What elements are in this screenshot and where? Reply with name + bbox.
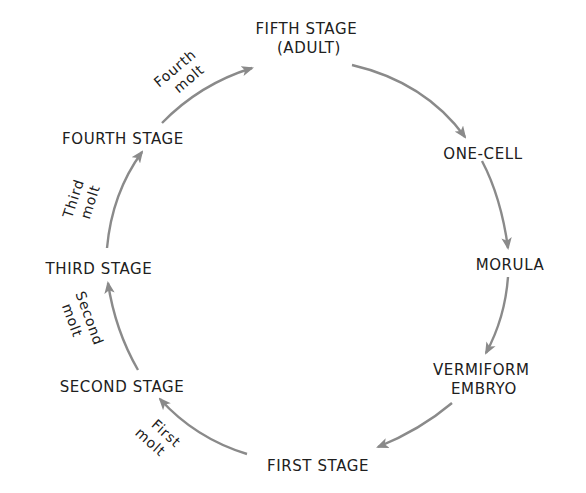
stage-vermiform-line2: EMBRYO <box>451 380 517 398</box>
stage-third: THIRD STAGE <box>45 260 153 278</box>
arrow-fifth-to-one-cell <box>352 65 465 137</box>
stage-one-cell: ONE-CELL <box>443 145 522 163</box>
molt-labels: Fourth molt Third molt Second molt First… <box>57 46 210 463</box>
life-cycle-diagram: FIFTH STAGE (ADULT) ONE-CELL MORULA VERM… <box>0 0 586 493</box>
stage-labels: FIFTH STAGE (ADULT) ONE-CELL MORULA VERM… <box>45 20 545 475</box>
arrow-one-cell-to-morula <box>482 161 508 248</box>
molt-label-third: Third molt <box>59 177 103 226</box>
stage-vermiform-embryo: VERMIFORM EMBRYO <box>433 361 535 398</box>
molt-label-fourth: Fourth molt <box>151 46 210 103</box>
stage-second: SECOND STAGE <box>60 378 185 396</box>
molt-label-second: Second molt <box>57 289 107 353</box>
arrow-vermiform-to-first <box>378 403 452 447</box>
stage-vermiform-line1: VERMIFORM <box>433 361 530 379</box>
stage-fifth-line2: (ADULT) <box>277 39 341 57</box>
stage-fifth-line1: FIFTH STAGE <box>255 20 357 38</box>
stage-morula: MORULA <box>476 256 545 274</box>
stage-fourth: FOURTH STAGE <box>62 130 184 148</box>
arrow-morula-to-vermiform <box>486 277 508 353</box>
stage-fifth-adult: FIFTH STAGE (ADULT) <box>255 20 362 57</box>
molt-label-first: First molt <box>132 412 184 463</box>
arrow-second-to-third <box>108 283 138 370</box>
stage-first: FIRST STAGE <box>267 457 369 475</box>
arrow-third-to-fourth <box>107 152 142 248</box>
